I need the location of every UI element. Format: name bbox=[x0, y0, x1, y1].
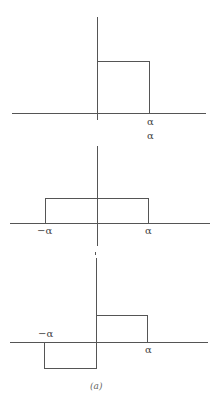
label-neg-alpha: −α bbox=[37, 225, 52, 236]
label-alpha: α bbox=[145, 225, 152, 236]
pulse bbox=[98, 62, 150, 114]
label-alpha: α bbox=[145, 344, 152, 355]
label-alpha-below: α bbox=[147, 130, 154, 141]
pulse-positive bbox=[97, 316, 148, 343]
figure-canvas: α α −α α −α α (a) bbox=[0, 0, 218, 405]
pulse-negative bbox=[45, 343, 97, 369]
panel-middle: −α α bbox=[10, 146, 210, 246]
panel-top: α α bbox=[12, 17, 206, 141]
figure-caption: (a) bbox=[90, 381, 103, 391]
label-neg-alpha: −α bbox=[38, 328, 53, 339]
panel-bottom: −α α bbox=[10, 252, 208, 369]
label-alpha: α bbox=[147, 116, 154, 127]
